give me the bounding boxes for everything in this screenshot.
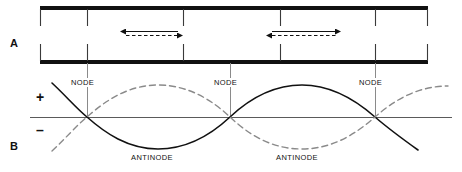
tube-top-ticks [41, 9, 428, 26]
panel-b-waves [30, 63, 452, 151]
antinode-label-2: ANTINODE [276, 153, 318, 162]
displacement-arrow-right [272, 32, 336, 36]
negative-sign-label: – [36, 123, 44, 137]
antinode-label-1: ANTINODE [131, 153, 173, 162]
positive-sign-label: + [36, 90, 44, 104]
panel-label-a: A [10, 37, 18, 49]
displacement-arrow-left [126, 32, 178, 36]
standing-wave-figure: A B + – NODE NODE NODE ANTINODE ANTINODE [0, 0, 462, 172]
node-label-3: NODE [358, 78, 383, 87]
tube-bottom-ticks [41, 44, 428, 61]
panel-a-tube [40, 8, 428, 62]
node-label-2: NODE [213, 78, 238, 87]
panel-label-b: B [10, 140, 18, 152]
solid-wave-curve [52, 83, 418, 150]
node-label-1: NODE [70, 78, 95, 87]
